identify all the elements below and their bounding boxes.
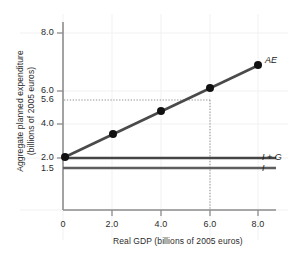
background-grid [20,14,288,240]
series-label-i: I [262,163,265,173]
data-point-ae-4 [254,61,262,69]
chart-figure: 8.0 6.0 5.6 4.0 2.0 1.5 0 2.0 4.0 6.0 8.… [0,0,290,256]
chart-canvas [0,0,290,256]
equilibrium-guides [64,100,210,210]
data-point-ae-2 [157,107,165,115]
data-point-ae-3 [206,84,214,92]
x-tick-label-4: 4.0 [150,219,172,229]
x-tick-label-0: 0 [52,219,74,229]
series-label-ae: AE [265,55,277,65]
y-axis-title: Aggregate planned expenditure (billions … [15,31,41,191]
data-point-ae-1 [109,130,117,138]
y-axis [57,22,63,210]
series-label-i-plus-g: I + G [262,152,282,162]
data-point-ae-0 [61,153,69,161]
x-tick-label-6: 6.0 [199,219,221,229]
x-axis [63,210,276,216]
x-tick-label-2: 2.0 [101,219,123,229]
x-tick-label-8: 8.0 [247,219,269,229]
y-axis-title-line-2: (billions of 2005 euros) [26,31,37,191]
y-axis-title-line-1: Aggregate planned expenditure [15,31,26,191]
x-axis-title: Real GDP (billions of 2005 euros) [113,236,243,246]
